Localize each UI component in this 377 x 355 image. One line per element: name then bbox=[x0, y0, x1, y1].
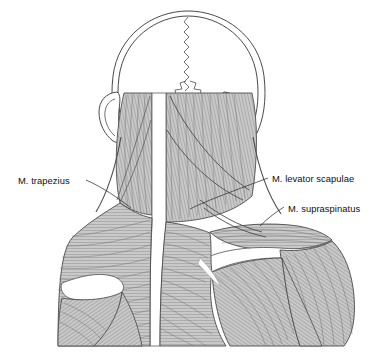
supraspinatus-right bbox=[210, 224, 332, 250]
neck-muscle-left bbox=[116, 93, 152, 215]
anatomical-figure: M. trapezius M. levator scapulae M. supr… bbox=[0, 0, 377, 355]
label-supraspinatus: M. supraspinatus bbox=[288, 203, 360, 214]
label-levator-scapulae: M. levator scapulae bbox=[272, 173, 354, 184]
label-trapezius: M. trapezius bbox=[18, 175, 70, 186]
leader-supraspinatus bbox=[260, 207, 284, 226]
neck-muscle-right bbox=[166, 93, 257, 222]
